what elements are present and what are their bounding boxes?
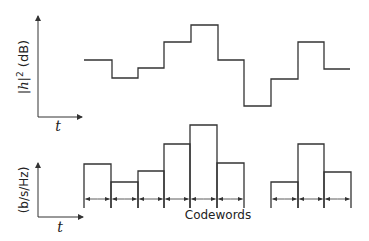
top-x-label: t [55, 118, 61, 134]
rate-bar [324, 172, 351, 208]
codewords-caption: Codewords [185, 208, 251, 222]
codeword-rate-adaptation-diagram: |h|2 (dB) t (b/s/Hz) t Codewords [0, 0, 369, 241]
rate-bar [84, 164, 111, 208]
rate-bar [298, 144, 324, 208]
bottom-axes: (b/s/Hz) t [17, 163, 83, 235]
rate-bar [138, 171, 164, 208]
bottom-x-label: t [57, 219, 63, 235]
top-y-label: |h|2 (dB) [15, 40, 31, 94]
bottom-y-label: (b/s/Hz) [17, 167, 31, 214]
rate-bar [190, 125, 217, 208]
rate-bar [271, 182, 298, 208]
rate-bar [217, 163, 244, 208]
top-axes: |h|2 (dB) t [15, 16, 82, 134]
channel-gain-step-curve [84, 25, 350, 106]
rate-bar [164, 144, 190, 208]
rate-bars [84, 125, 351, 208]
rate-bar [111, 182, 138, 208]
